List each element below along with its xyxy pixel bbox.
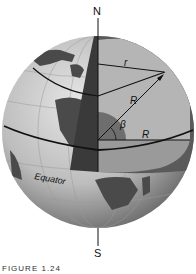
- globe-diagram: N S r R R β Equator: [0, 0, 196, 274]
- label-radius-lower: R: [142, 129, 149, 140]
- figure-caption: FIGURE 1.24: [2, 264, 61, 273]
- label-angle-beta: β: [119, 119, 126, 130]
- label-north: N: [93, 5, 101, 17]
- label-radius-upper: R: [130, 95, 137, 106]
- label-south: S: [94, 247, 101, 259]
